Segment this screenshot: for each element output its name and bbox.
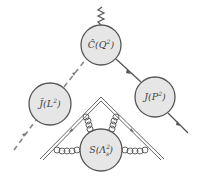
node-hard: Ĉ(Q2) xyxy=(81,25,121,65)
svg-text:J(P2): J(P2) xyxy=(142,90,166,102)
node-soft: S(Λ2s) xyxy=(80,129,122,171)
arrow-icon xyxy=(72,72,76,76)
factorization-diagram: Ĉ(Q2) J̄(L2) J(P2) S(Λ2s) xyxy=(0,0,198,179)
svg-text:J̄(L2): J̄(L2) xyxy=(37,97,61,109)
svg-text:S(Λ2s): S(Λ2s) xyxy=(89,143,113,157)
solid-line-hard-to-jet xyxy=(116,59,141,82)
node-jet-left: J̄(L2) xyxy=(29,83,71,125)
photon-line xyxy=(98,7,104,25)
node-jet-right: J(P2) xyxy=(135,77,175,117)
svg-text:Ĉ(Q2): Ĉ(Q2) xyxy=(88,38,115,50)
